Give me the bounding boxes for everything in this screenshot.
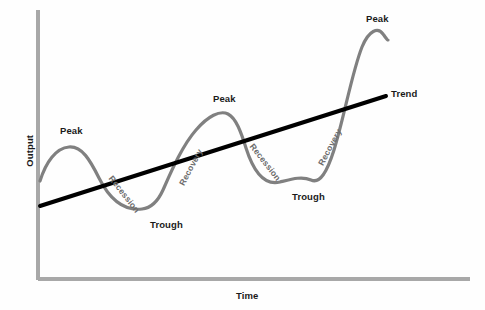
x-axis-title: Time	[236, 291, 258, 301]
label-peak-3: Peak	[366, 14, 389, 24]
business-cycle-figure: Output Time Peak Trough Peak Trough Peak…	[0, 0, 485, 310]
label-peak-1: Peak	[60, 126, 83, 136]
y-axis-title: Output	[25, 129, 35, 173]
label-trough-2: Trough	[292, 192, 325, 202]
label-peak-2: Peak	[213, 94, 236, 104]
output-curve	[40, 30, 388, 209]
label-trough-1: Trough	[150, 220, 183, 230]
cycle-plot-canvas	[0, 0, 485, 310]
label-trend: Trend	[391, 89, 417, 99]
